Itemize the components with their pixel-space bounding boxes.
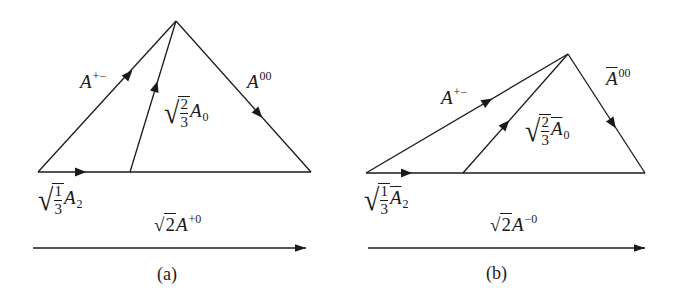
panel-a-lower-arrow-label: √2A+0: [154, 215, 201, 234]
sqrt-icon: √: [490, 214, 500, 235]
panel-b-arrowheads: [401, 95, 619, 178]
sqrt-icon: √: [525, 116, 540, 147]
arrowhead-icon: [606, 117, 620, 131]
panel-a-right-edge-label: A00: [247, 72, 272, 91]
panel-a-middle-edge-label: √23A0: [164, 96, 208, 130]
isospin-triangle-diagram: [0, 0, 677, 301]
panel-b-lower-arrow-label: √2A−0: [490, 215, 537, 234]
panel-b-caption: (b): [486, 263, 507, 284]
panel-b-triangle: [366, 54, 645, 173]
sqrt-icon: √: [154, 214, 164, 235]
panel-b-right-edge-label: A00: [606, 69, 631, 88]
arrowhead-icon: [481, 95, 495, 108]
sqrt-icon: √: [38, 185, 53, 216]
panel-a-left-edge: [38, 21, 176, 172]
panel-a-left-edge-label: A+−: [80, 72, 106, 91]
panel-b-middle-edge-label: √23A0: [525, 114, 569, 148]
arrowhead-icon: [122, 67, 136, 81]
panel-a-caption: (a): [157, 264, 177, 285]
sqrt-icon: √: [364, 185, 379, 216]
panel-b-base-edge-label: √13A2: [364, 183, 408, 217]
panel-a-base-edge-label: √13A2: [38, 183, 82, 217]
arrowhead-icon: [150, 80, 162, 93]
arrowhead-icon: [401, 169, 412, 178]
sqrt-icon: √: [164, 98, 179, 129]
panel-b-left-edge-label: A+−: [441, 88, 467, 107]
arrowhead-icon: [75, 168, 86, 177]
